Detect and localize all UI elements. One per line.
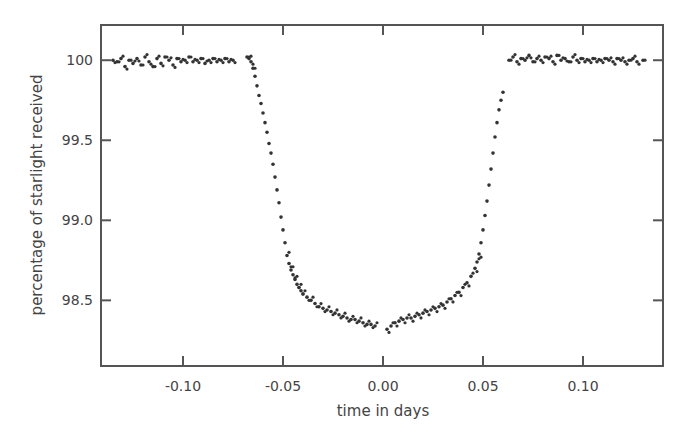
x-axis-ticks: -0.10-0.050.000.050.10 [165, 25, 599, 394]
data-point [497, 108, 501, 112]
data-point [517, 63, 520, 66]
x-tick-label: 0.05 [467, 378, 498, 394]
data-point [313, 302, 317, 306]
data-point [299, 289, 303, 293]
data-point [259, 102, 263, 106]
data-point [153, 65, 156, 68]
data-point [129, 59, 132, 62]
data-point [357, 319, 361, 323]
data-point [375, 321, 378, 324]
data-point [541, 61, 544, 64]
data-point [251, 63, 254, 66]
data-point [349, 318, 353, 322]
data-point [529, 56, 532, 59]
data-point [493, 135, 497, 139]
data-point [479, 256, 482, 259]
data-point [335, 308, 338, 311]
data-point [621, 56, 624, 59]
y-tick-label: 99.0 [62, 212, 93, 228]
data-point [577, 61, 580, 64]
data-point [303, 289, 306, 292]
data-point [457, 291, 461, 295]
data-point [317, 305, 321, 309]
data-point [257, 94, 261, 98]
data-point [275, 188, 279, 192]
data-point [533, 60, 536, 63]
data-point [169, 56, 172, 59]
x-axis-label: time in days [337, 402, 430, 420]
data-point [213, 57, 216, 60]
data-point [263, 121, 267, 125]
data-point [165, 55, 168, 58]
data-point [421, 311, 425, 315]
data-point [491, 151, 495, 155]
data-point [509, 59, 512, 62]
data-point [249, 55, 252, 58]
data-point [225, 57, 228, 60]
data-point [267, 142, 271, 146]
data-point [573, 53, 576, 56]
data-point [329, 310, 333, 314]
data-point [277, 201, 281, 205]
data-point [441, 303, 445, 307]
data-point [513, 53, 516, 56]
data-point [125, 67, 128, 70]
data-point [469, 275, 473, 279]
data-point [467, 284, 470, 287]
data-point [337, 313, 341, 317]
data-point [403, 321, 406, 324]
data-point [387, 331, 390, 334]
data-point [201, 57, 204, 60]
data-point [537, 55, 540, 58]
data-point [173, 66, 176, 69]
data-point [411, 320, 414, 323]
data-point [569, 60, 572, 63]
data-point [429, 308, 433, 312]
data-point [449, 297, 453, 301]
data-point [281, 228, 285, 232]
data-point [185, 61, 188, 64]
data-point [409, 316, 413, 320]
data-point [407, 313, 410, 316]
y-axis-label: percentage of starlight received [28, 75, 46, 316]
x-tick-label: -0.10 [165, 378, 201, 394]
data-point [475, 260, 479, 264]
data-point [471, 272, 474, 275]
data-point [477, 252, 481, 256]
data-point [345, 316, 349, 320]
data-point [319, 302, 322, 305]
data-point [549, 55, 552, 58]
data-point [625, 63, 628, 66]
data-point [305, 295, 309, 299]
data-point [261, 111, 265, 115]
data-point [161, 64, 164, 67]
data-point [593, 57, 596, 60]
data-point [327, 305, 330, 308]
y-tick-label: 98.5 [62, 292, 93, 308]
data-point [609, 56, 612, 59]
data-point [189, 55, 192, 58]
data-points [111, 53, 646, 334]
data-point [393, 321, 397, 325]
data-point [589, 61, 592, 64]
data-point [417, 313, 421, 317]
data-point [581, 57, 584, 60]
data-point [433, 307, 437, 311]
data-point [475, 270, 478, 273]
data-point [401, 318, 405, 322]
data-point [489, 167, 493, 171]
data-point [425, 310, 429, 314]
data-point [483, 214, 487, 218]
data-point [157, 55, 160, 58]
data-point [283, 241, 287, 245]
x-tick-label: 0.00 [367, 378, 398, 394]
data-point [369, 323, 373, 327]
data-point [221, 61, 224, 64]
data-point [397, 319, 401, 323]
data-point [291, 273, 295, 277]
data-point [419, 316, 422, 319]
data-point [291, 265, 294, 268]
data-point [293, 278, 297, 282]
data-point [271, 162, 275, 166]
data-point [373, 324, 377, 328]
